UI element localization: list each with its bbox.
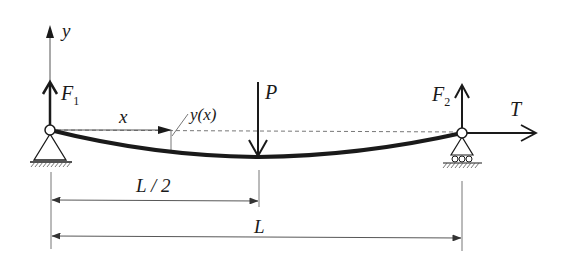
deflection-label: y(x) bbox=[188, 105, 217, 124]
x-coordinate-arrow bbox=[54, 126, 172, 134]
tension-arrow bbox=[467, 125, 536, 141]
dimension-extension-lines bbox=[51, 170, 462, 251]
right-reaction-label: F2 bbox=[431, 83, 450, 109]
x-coordinate-label: x bbox=[118, 106, 128, 127]
point-load-label: P bbox=[264, 81, 277, 103]
deflection-leader bbox=[171, 114, 188, 150]
left-reaction-arrow bbox=[43, 82, 57, 126]
y-axis-label: y bbox=[60, 20, 71, 41]
tension-label: T bbox=[510, 98, 523, 120]
left-reaction-label: F1 bbox=[60, 82, 79, 108]
y-axis bbox=[46, 25, 54, 82]
left-pinned-support bbox=[30, 125, 72, 167]
half-span-dimension bbox=[52, 200, 258, 201]
right-reaction-arrow bbox=[455, 85, 469, 128]
half-span-label: L / 2 bbox=[135, 175, 171, 196]
span-label: L bbox=[253, 216, 265, 237]
beam-diagram: y F1 x y(x) P bbox=[0, 0, 562, 266]
